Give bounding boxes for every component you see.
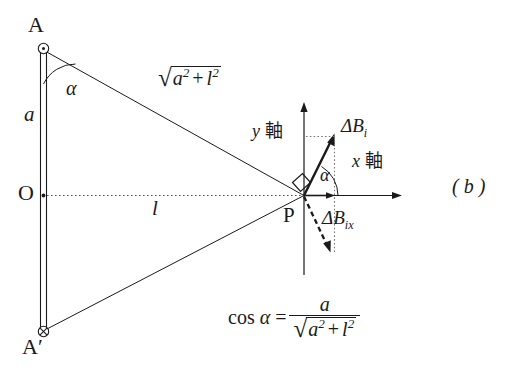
formula-angle-alpha: α (260, 307, 271, 327)
x-axis-arrowhead (392, 192, 402, 199)
point-label-O: O (18, 182, 34, 204)
y-axis-symbol: y (252, 121, 260, 141)
physics-figure: A A′ O P a l α α √ a2+l2 y 軸 x 軸 ΔBi ΔBi… (0, 0, 509, 379)
x-axis-symbol: x (352, 151, 360, 171)
radicand-term-a: a (173, 67, 183, 89)
vector-label-delta-B-i: ΔBi (341, 116, 367, 135)
formula-denominator-exp-l: 2 (348, 316, 355, 331)
delta-B-ix-symbol: ΔB (322, 207, 345, 228)
formula-fraction: a √ a2+l2 (289, 294, 360, 341)
formula-cos-operator: cos (228, 307, 255, 327)
panel-tag: ( b ) (452, 176, 485, 196)
formula-equals-sign: = (275, 307, 286, 327)
hypotenuse-label: √ a2+l2 (158, 66, 221, 90)
delta-B-ix-subscript: ix (345, 218, 354, 232)
y-axis-word: 軸 (265, 120, 283, 141)
angle-label-alpha-at-P: α (320, 166, 329, 184)
y-axis-arrowhead (300, 102, 307, 112)
formula-denominator-operator: + (325, 318, 342, 340)
formula-radical-sign-icon: √ (293, 317, 307, 341)
x-axis-label: x 軸 (352, 152, 383, 170)
dot-icon-O (42, 194, 46, 198)
point-label-A: A (28, 14, 44, 36)
formula-denominator-exp-a: 2 (318, 316, 325, 331)
delta-B-i-subscript: i (364, 126, 367, 140)
cosine-formula: cos α = a √ a2+l2 (228, 294, 363, 341)
formula-numerator: a (314, 294, 336, 315)
radicand-exp-l: 2 (212, 65, 219, 80)
angle-label-alpha-at-A: α (66, 78, 77, 98)
vector-label-delta-B-ix: ΔBix (322, 208, 354, 227)
segment-label-a: a (24, 104, 35, 125)
point-label-P: P (283, 205, 295, 226)
radical-sign-icon: √ (158, 66, 172, 90)
formula-denominator-term-a: a (308, 318, 318, 340)
x-component-arrowhead (326, 192, 335, 199)
formula-denominator: √ a2+l2 (289, 316, 360, 341)
delta-B-i-symbol: ΔB (341, 115, 364, 136)
y-axis-label: y 軸 (252, 122, 283, 140)
x-axis-word: 軸 (365, 150, 383, 171)
delta-B-ix-vector-arrowhead (323, 240, 331, 252)
circle-dot-icon-center (42, 47, 45, 50)
segment-label-l: l (152, 198, 158, 219)
point-label-A-prime: A′ (22, 336, 43, 358)
radicand-operator: + (189, 67, 206, 89)
